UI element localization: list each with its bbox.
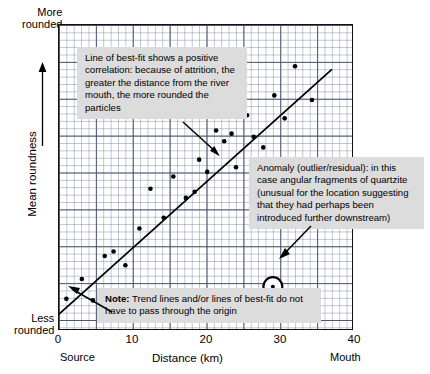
data-point [184, 196, 189, 201]
data-point [293, 64, 298, 69]
data-point [222, 139, 227, 144]
annotation-note-text: Trend lines and/or lines of best-fit do … [105, 293, 303, 316]
annotation-note-label: Note: [105, 293, 130, 304]
data-point [137, 226, 142, 231]
data-point [171, 174, 176, 179]
chart-figure: More rounded Less rounded Mean roundness… [0, 0, 430, 374]
data-point [205, 170, 210, 175]
data-point [234, 165, 239, 170]
data-point [310, 98, 315, 103]
y-axis-direction-arrow [37, 62, 48, 146]
annotation-best-fit: Line of best-fit shows a positive correl… [77, 47, 247, 119]
data-point [91, 298, 96, 303]
x-axis-right-label: Mouth [330, 351, 361, 363]
x-tick-20: 20 [193, 333, 219, 345]
x-tick-0: 0 [45, 333, 71, 345]
y-axis-title: Mean roundness [26, 114, 38, 234]
x-axis-left-label: Source [60, 351, 95, 363]
data-point [161, 215, 166, 220]
data-point [192, 189, 197, 194]
data-point [64, 297, 69, 302]
data-point [261, 145, 266, 150]
data-point [282, 116, 287, 121]
data-point [123, 263, 128, 268]
data-point [251, 134, 256, 139]
data-point [80, 277, 85, 282]
data-point [229, 131, 234, 136]
y-axis-top-label: More rounded [22, 6, 62, 30]
data-point [148, 186, 153, 191]
x-tick-10: 10 [119, 333, 145, 345]
x-tick-40: 40 [341, 333, 367, 345]
data-point [102, 254, 107, 259]
data-point [197, 157, 202, 162]
data-point [111, 249, 116, 254]
x-axis-title: Distance (km) [152, 352, 223, 364]
annotation-note: Note: Trend lines and/or lines of best-f… [97, 288, 321, 323]
data-point [214, 128, 219, 133]
x-tick-30: 30 [267, 333, 293, 345]
data-point [272, 93, 277, 98]
annotation-anomaly: Anomaly (outlier/residual): in this case… [249, 157, 424, 229]
